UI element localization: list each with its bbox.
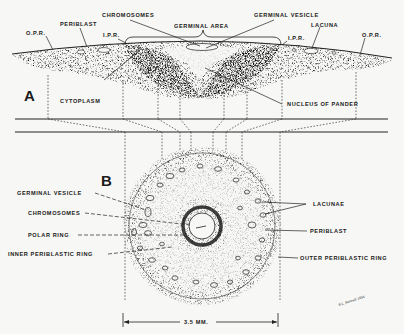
label-outer-periblastic-ring: OUTER PERIBLASTIC RING xyxy=(300,255,387,261)
scale-label: 3.5 MM. xyxy=(184,319,208,325)
germinal-vesicle-b xyxy=(189,213,215,239)
germinal-vesicle-a xyxy=(186,44,218,51)
section-letter-b: B xyxy=(101,172,112,189)
label-cytoplasm: CYTOPLASM xyxy=(60,98,100,104)
label-chromosomes-a: CHROMOSOMES xyxy=(102,12,154,18)
leader-opr-right xyxy=(360,38,365,55)
label-chromosomes-b: CHROMOSOMES xyxy=(28,210,80,216)
label-germinal-vesicle-b: GERMINAL VESICLE xyxy=(17,190,82,196)
lacuna xyxy=(332,52,336,55)
lacuna xyxy=(292,49,296,52)
label-polar-ring: POLAR RING xyxy=(28,232,69,238)
lacuna xyxy=(98,48,110,53)
label-germinal-vesicle-a: GERMINAL VESICLE xyxy=(254,12,319,18)
blastoderm-diagram: O.P.R. PERIBLAST I.P.R. CHROMOSOMES GERM… xyxy=(0,0,404,334)
label-periblast-b: PERIBLAST xyxy=(310,228,347,234)
section-a-cross-section: O.P.R. PERIBLAST I.P.R. CHROMOSOMES GERM… xyxy=(12,12,392,107)
lacuna xyxy=(304,48,318,53)
label-inner-periblastic-ring: INNER PERIBLASTIC RING xyxy=(8,251,93,257)
scale-bar: 3.5 MM. xyxy=(123,313,278,327)
leader-ipr-left xyxy=(118,39,126,43)
label-nucleus-of-pander: NUCLEUS OF PANDER xyxy=(287,101,358,107)
label-opr-left: O.P.R. xyxy=(26,30,46,36)
artist-signature: B.L. Bennett 1934 xyxy=(338,295,365,307)
section-letter-a: A xyxy=(24,87,35,104)
signature-text: B.L. Bennett 1934 xyxy=(338,295,365,307)
section-b-surface-view: B GERMINAL VESICLE CHROMOSOMES POLAR RIN… xyxy=(8,146,387,306)
label-lacunae: LACUNAE xyxy=(313,201,345,207)
label-periblast-a: PERIBLAST xyxy=(60,21,97,27)
lacuna xyxy=(77,50,85,54)
leader-outer-periblastic-ring xyxy=(278,257,298,258)
label-ipr-left: I.P.R. xyxy=(103,32,120,38)
label-germinal-area: GERMINAL AREA xyxy=(174,23,229,29)
label-ipr-right: I.P.R. xyxy=(288,35,305,41)
label-lacuna: LACUNA xyxy=(311,22,338,28)
label-opr-right: O.P.R. xyxy=(362,32,382,38)
leader-periblast xyxy=(80,28,87,47)
leader-opr-left xyxy=(46,36,53,50)
leader-lacuna xyxy=(312,27,320,48)
